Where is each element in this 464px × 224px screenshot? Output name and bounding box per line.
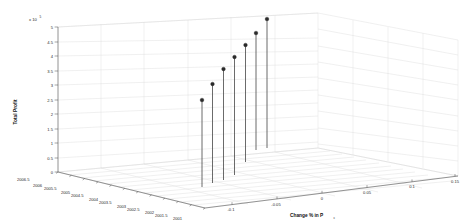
z-tick-2006: 2006 bbox=[33, 183, 43, 188]
stem-point-2 bbox=[211, 82, 215, 183]
z-tick-2004-5: 2004.5 bbox=[71, 193, 84, 198]
stem-marker-6 bbox=[254, 31, 258, 35]
z-tick-2003: 2003 bbox=[117, 204, 127, 209]
y-tick-1: 0.5 bbox=[47, 156, 53, 161]
x-tick-neg0-1: -0.1 bbox=[227, 207, 235, 212]
y-tick-5: 2.5 bbox=[47, 98, 53, 103]
stem-marker-4 bbox=[233, 55, 237, 59]
x-tick-0: 0 bbox=[321, 196, 324, 201]
z-tick-2001: 2001 bbox=[173, 216, 183, 221]
stem-marker-2 bbox=[211, 82, 215, 86]
y-tick-9: 4.5 bbox=[47, 40, 53, 45]
y-tick-2: 1 bbox=[51, 141, 54, 146]
y-tick-0: 0 bbox=[51, 170, 54, 175]
x-tick-0-15: 0.15 bbox=[451, 179, 460, 184]
z-tick-2001-5: 2001.5 bbox=[155, 213, 168, 218]
z-tick-2003-5: 2003.5 bbox=[99, 200, 112, 205]
stem-marker-5 bbox=[244, 43, 248, 47]
stem-point-5 bbox=[244, 43, 248, 162]
z-tick-2005: 2005 bbox=[61, 190, 71, 195]
stem-marker-1 bbox=[200, 98, 204, 102]
y-axis: 0 0.5 1 1.5 2 2.5 3 3.5 4 4.5 5 x 10 5 T… bbox=[13, 15, 58, 175]
y-exponent-power: 5 bbox=[40, 15, 42, 19]
floor-grid bbox=[58, 148, 458, 208]
y-axis-title: Total Profit bbox=[13, 99, 18, 124]
back-wall-grid bbox=[58, 13, 318, 172]
y-tick-10: 5 bbox=[51, 25, 54, 30]
z-tick-2005-5: 2005.5 bbox=[44, 186, 57, 191]
stem-point-3 bbox=[222, 67, 226, 180]
stem-point-1 bbox=[200, 98, 204, 187]
y-tick-7: 3.5 bbox=[47, 69, 53, 74]
z-tick-2004: 2004 bbox=[89, 197, 99, 202]
x-tick-0-05: 0.05 bbox=[363, 190, 372, 195]
x-axis-title-subscript: c bbox=[334, 216, 336, 220]
figure-canvas: 0 0.5 1 1.5 2 2.5 3 3.5 4 4.5 5 x 10 5 T… bbox=[0, 0, 464, 224]
y-axis-exponent: x 10 5 bbox=[29, 15, 42, 22]
y-tick-4: 2 bbox=[51, 112, 54, 117]
stem-marker-7 bbox=[265, 17, 269, 21]
stem3d-plot: 0 0.5 1 1.5 2 2.5 3 3.5 4 4.5 5 x 10 5 T… bbox=[0, 0, 464, 224]
stem-marker-3 bbox=[222, 67, 226, 71]
z-tick-2002: 2002 bbox=[145, 210, 155, 215]
right-wall-grid bbox=[318, 13, 458, 176]
z-tick-2006-5: 2006.5 bbox=[17, 177, 30, 182]
x-tick-neg0-05: -0.05 bbox=[271, 202, 281, 207]
x-tick-0-1: 0.1 bbox=[409, 184, 415, 189]
stem-point-7 bbox=[265, 17, 269, 148]
x-axis-title: Change % in P bbox=[290, 213, 324, 218]
y-exponent-base: x 10 bbox=[29, 17, 38, 22]
y-tick-8: 4 bbox=[51, 54, 54, 59]
x-axis-title-group: Change % in P c bbox=[290, 213, 336, 220]
y-tick-3: 1.5 bbox=[47, 127, 53, 132]
z-tick-2002-5: 2002.5 bbox=[127, 207, 140, 212]
y-tick-6: 3 bbox=[51, 83, 54, 88]
